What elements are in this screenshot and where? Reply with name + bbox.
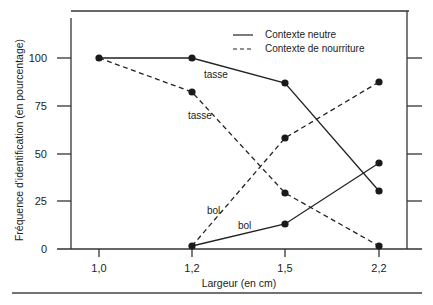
x-ticks (99, 249, 379, 257)
legend: Contexte neutre Contexte de nourriture (233, 29, 365, 54)
legend-label-neutre: Contexte neutre (265, 29, 337, 40)
annotation-tasse-nourriture: tasse (188, 110, 212, 121)
annotation-bol-neutre: bol (238, 220, 251, 231)
x-tick-label-2-2: 2,2 (371, 262, 386, 274)
x-tick-label-1-2: 1,2 (184, 262, 199, 274)
chart: 100 75 50 25 0 1,0 1,2 1,5 2,2 Largeur (… (0, 0, 433, 305)
x-tick-label-1-0: 1,0 (91, 262, 106, 274)
y-axis-title: Fréquence d'identification (en pourcenta… (13, 39, 25, 241)
legend-label-nourriture: Contexte de nourriture (265, 43, 365, 54)
annotation-tasse-neutre: tasse (204, 69, 228, 80)
series-tasse-nourriture (99, 58, 379, 246)
y-ticks-left (57, 58, 71, 201)
y-tick-label-100: 100 (29, 52, 47, 64)
x-axis-title: Largeur (en cm) (202, 277, 277, 289)
y-tick-label-25: 25 (35, 195, 47, 207)
y-tick-label-0: 0 (41, 243, 47, 255)
y-tick-label-75: 75 (35, 100, 47, 112)
y-tick-label-50: 50 (35, 148, 47, 160)
x-tick-label-1-5: 1,5 (277, 262, 292, 274)
y-ticks-right (407, 58, 422, 201)
annotation-bol-nourriture: bol (207, 205, 220, 216)
series-tasse-neutre (99, 58, 379, 191)
